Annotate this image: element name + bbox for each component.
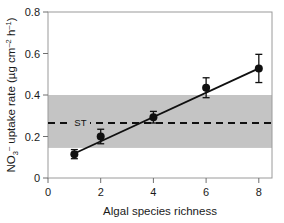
x-axis-ticks (48, 178, 259, 183)
x-tick-label-4: 4 (150, 186, 156, 198)
y-axis-title-base: NO (5, 155, 17, 172)
y-axis-title-sup-cm: –2 (4, 39, 13, 47)
y-tick-labels: 0.8 0.6 0.4 0.2 0 (25, 6, 40, 184)
nitrate-uptake-scatter-chart: 0.8 0.6 0.4 0.2 0 0 2 4 6 8 Algal specie… (0, 0, 284, 223)
y-axis-title-sup-h: –1 (4, 21, 13, 29)
x-tick-label-6: 6 (203, 186, 209, 198)
y-axis-ticks (43, 12, 48, 178)
x-axis-title: Algal species richness (103, 205, 217, 217)
data-point-marker-3 (149, 113, 157, 121)
y-tick-label-0: 0 (34, 172, 40, 184)
y-tick-label-0.4: 0.4 (25, 89, 40, 101)
data-point-marker-5 (255, 64, 263, 72)
x-tick-labels: 0 2 4 6 8 (45, 186, 262, 198)
y-axis-title-mid2: h (5, 30, 17, 40)
x-tick-label-2: 2 (98, 186, 104, 198)
data-point-marker-2 (97, 133, 105, 141)
y-axis-title-mid: uptake rate (µg cm (5, 48, 17, 147)
x-tick-label-8: 8 (256, 186, 262, 198)
y-tick-label-0.2: 0.2 (25, 131, 40, 143)
chart-figure: 0.8 0.6 0.4 0.2 0 0 2 4 6 8 Algal specie… (0, 0, 284, 223)
y-tick-label-0.8: 0.8 (25, 6, 40, 18)
y-tick-label-0.6: 0.6 (25, 48, 40, 60)
y-axis-title: NO3– uptake rate (µg cm–2 h–1) (4, 17, 20, 172)
y-axis-title-tail: ) (5, 17, 17, 21)
data-point-marker-1 (70, 150, 78, 158)
x-tick-label-0: 0 (45, 186, 51, 198)
st-label: ST (74, 117, 87, 128)
data-point-marker-4 (202, 84, 210, 92)
